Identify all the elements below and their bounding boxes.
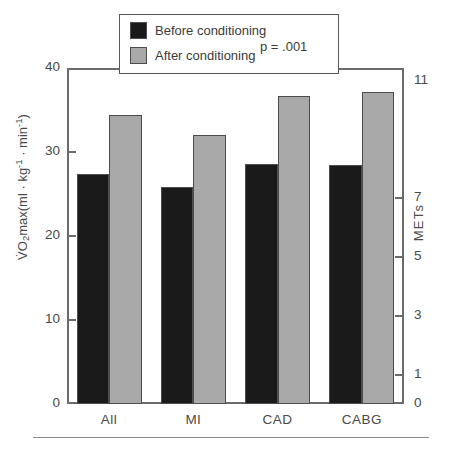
left-axis-title-text: V̇O2max(ml · kg-1 · min-1) (15, 114, 30, 260)
figure-vo2max-mets-bar-chart: 403020100 0135711 AllMICADCABG V̇O2max(m… (0, 0, 461, 449)
bar-cad-after (278, 96, 311, 404)
legend-box: Before conditioning After conditioning p… (119, 14, 339, 74)
bar-mi-before (161, 187, 194, 404)
legend-item-before: Before conditioning (130, 22, 266, 39)
legend-swatch-before-icon (130, 22, 147, 39)
x-axis-tick-label-cad: CAD (233, 412, 323, 427)
x-axis-tick-label-all: All (64, 412, 154, 427)
right-axis-title-text: METs (411, 204, 426, 241)
bottom-divider-rule (33, 437, 429, 438)
legend-label-before: Before conditioning (155, 23, 266, 38)
bar-mi-after (193, 135, 226, 404)
x-axis-tick-label-mi: MI (148, 412, 238, 427)
bar-cad-before (245, 164, 278, 404)
x-axis-tick-label-cabg: CABG (317, 412, 407, 427)
legend-label-after: After conditioning (155, 48, 255, 63)
legend-swatch-after-icon (130, 47, 147, 64)
bar-cabg-after (362, 92, 395, 404)
p-value-annotation: p = .001 (260, 39, 307, 54)
bar-all-before (77, 174, 110, 404)
bar-all-after (109, 115, 142, 404)
legend-item-after: After conditioning (130, 47, 255, 64)
bar-cabg-before (329, 165, 362, 404)
left-axis-title: V̇O2max(ml · kg-1 · min-1) (13, 87, 31, 287)
right-axis-title: METs (411, 183, 426, 263)
